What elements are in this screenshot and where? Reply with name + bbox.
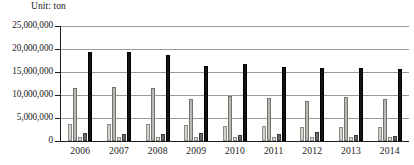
x-axis-tick-label: 2006 [61, 145, 100, 163]
bar-series-5-2014 [398, 69, 402, 141]
bar-series-5-2006 [88, 52, 92, 141]
bar-series-2-2006 [73, 88, 77, 141]
bar-series-4-2012 [315, 132, 319, 141]
y-axis-tick-label: 20,000,000 [0, 44, 53, 53]
x-axis-tick-label: 2008 [138, 145, 177, 163]
y-axis-tick-labels: 05,000,00010,000,00015,000,00020,000,000… [0, 0, 53, 165]
bar-series-2-2013 [344, 97, 348, 141]
y-axis-tick-label: 5,000,000 [0, 113, 53, 122]
y-axis-tick [55, 49, 61, 50]
bar-series-5-2010 [243, 64, 247, 141]
bar-group-2011 [254, 26, 293, 141]
bar-series-3-2007 [117, 137, 121, 141]
bar-series-3-2006 [78, 137, 82, 141]
bar-group-2008 [138, 26, 177, 141]
bar-series-1-2011 [262, 126, 266, 141]
bar-series-3-2014 [388, 137, 392, 141]
bar-series-1-2006 [68, 124, 72, 141]
bar-series-4-2009 [199, 133, 203, 141]
x-axis-tick-labels: 200620072008200920102011201220132014 [61, 145, 409, 163]
bar-series-2-2010 [228, 96, 232, 141]
bar-series-3-2010 [233, 137, 237, 141]
bar-series-2-2009 [189, 99, 193, 141]
bar-group-2014 [370, 26, 409, 141]
bar-series-5-2012 [320, 68, 324, 141]
bar-series-4-2010 [238, 135, 242, 141]
bar-series-2-2011 [267, 98, 271, 141]
bar-series-5-2011 [282, 67, 286, 141]
bar-series-5-2008 [166, 55, 170, 141]
bar-series-3-2008 [156, 137, 160, 141]
y-axis-tick-label: 0 [0, 136, 53, 145]
bar-series-3-2009 [194, 137, 198, 141]
bar-group-2007 [100, 26, 139, 141]
bar-series-5-2007 [127, 52, 131, 141]
bar-series-3-2012 [310, 137, 314, 141]
x-axis-tick-label: 2013 [332, 145, 371, 163]
bar-series-1-2008 [146, 124, 150, 141]
bar-group-2009 [177, 26, 216, 141]
bar-series-2-2014 [383, 99, 387, 141]
y-axis-tick [55, 26, 61, 27]
x-axis-tick-label: 2011 [254, 145, 293, 163]
bar-series-1-2014 [378, 127, 382, 141]
bar-groups [61, 26, 409, 141]
bar-series-1-2010 [223, 126, 227, 141]
bar-group-2006 [61, 26, 100, 141]
bar-group-2012 [293, 26, 332, 141]
bar-series-2-2007 [112, 87, 116, 141]
bar-series-4-2008 [161, 134, 165, 141]
bar-series-4-2014 [393, 136, 397, 141]
bar-series-5-2009 [204, 66, 208, 141]
y-axis-tick [55, 141, 61, 142]
bar-chart: Unit: ton 05,000,00010,000,00015,000,000… [0, 0, 414, 165]
x-axis-tick-label: 2012 [293, 145, 332, 163]
x-axis-tick-label: 2007 [100, 145, 139, 163]
y-axis-tick [55, 118, 61, 119]
bar-series-5-2013 [359, 68, 363, 141]
y-axis-tick-label: 25,000,000 [0, 21, 53, 30]
bar-series-2-2012 [305, 101, 309, 141]
y-axis-tick [55, 95, 61, 96]
x-axis-tick-label: 2010 [216, 145, 255, 163]
bar-series-3-2011 [272, 137, 276, 141]
y-axis-tick [55, 72, 61, 73]
bar-series-1-2012 [300, 127, 304, 141]
y-axis-tick-label: 10,000,000 [0, 90, 53, 99]
bar-group-2013 [332, 26, 371, 141]
bar-series-4-2006 [83, 133, 87, 141]
bar-series-1-2009 [184, 125, 188, 141]
bar-series-3-2013 [349, 137, 353, 141]
y-axis-tick-label: 15,000,000 [0, 67, 53, 76]
x-axis-tick-label: 2014 [370, 145, 409, 163]
bar-series-4-2013 [354, 135, 358, 141]
x-axis-tick-label: 2009 [177, 145, 216, 163]
bar-series-4-2007 [122, 134, 126, 141]
bar-series-4-2011 [277, 134, 281, 141]
bar-series-1-2013 [339, 127, 343, 141]
bar-group-2010 [216, 26, 255, 141]
bar-series-1-2007 [107, 124, 111, 141]
bar-series-2-2008 [151, 88, 155, 141]
axis-baseline [60, 141, 409, 142]
